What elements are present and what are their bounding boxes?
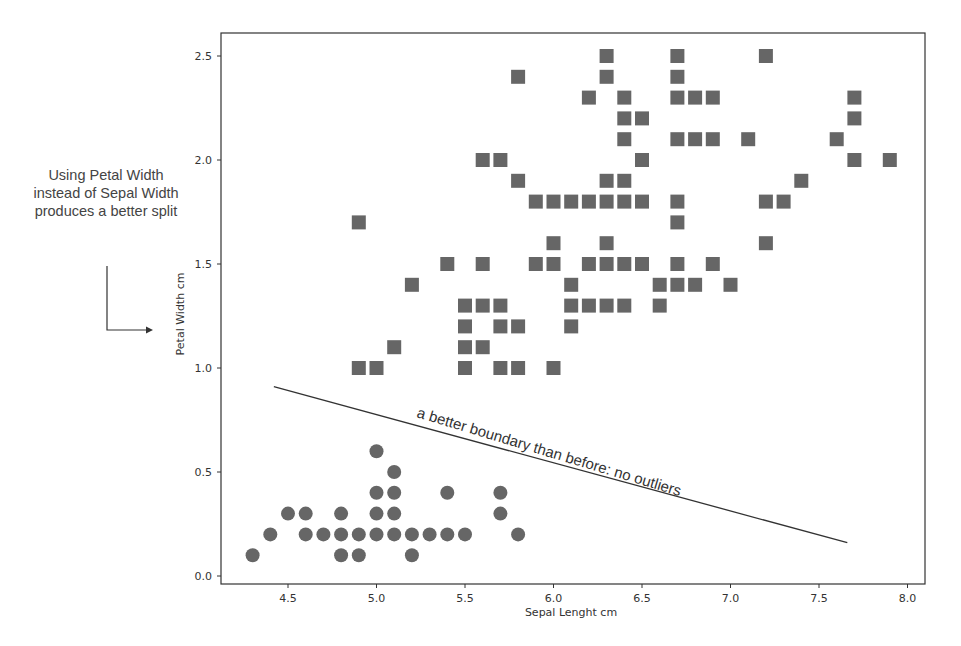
circle-marker — [458, 527, 472, 541]
square-marker — [582, 299, 596, 313]
circle-marker — [334, 527, 348, 541]
boundary-label: a better boundary than before: no outlie… — [415, 404, 683, 499]
circle-marker — [352, 527, 366, 541]
square-marker — [511, 70, 525, 84]
circle-marker — [334, 548, 348, 562]
square-marker — [476, 340, 490, 354]
square-marker — [458, 361, 472, 375]
square-marker — [670, 278, 684, 292]
circle-marker — [493, 486, 507, 500]
circle-marker — [370, 507, 384, 521]
square-marker — [777, 195, 791, 209]
square-marker — [653, 299, 667, 313]
circle-marker — [352, 548, 366, 562]
square-marker — [458, 340, 472, 354]
square-marker — [387, 340, 401, 354]
square-marker — [600, 257, 614, 271]
circle-marker — [246, 548, 260, 562]
square-marker — [493, 153, 507, 167]
arrow-icon — [107, 266, 153, 334]
circle-marker — [370, 486, 384, 500]
square-marker — [617, 195, 631, 209]
y-tick-label: 0.0 — [195, 570, 213, 583]
square-marker — [847, 153, 861, 167]
square-marker — [547, 195, 561, 209]
square-marker — [493, 299, 507, 313]
circle-marker — [370, 527, 384, 541]
square-marker — [670, 195, 684, 209]
square-marker — [635, 153, 649, 167]
boundary-line — [274, 387, 847, 543]
circle-marker — [387, 486, 401, 500]
y-tick-label: 1.5 — [195, 258, 213, 271]
square-marker — [670, 91, 684, 105]
square-marker — [493, 361, 507, 375]
circle-marker — [299, 527, 313, 541]
circle-marker — [405, 527, 419, 541]
square-marker — [547, 236, 561, 250]
square-marker — [370, 361, 384, 375]
square-marker — [352, 215, 366, 229]
square-marker — [600, 49, 614, 63]
x-tick-label: 7.5 — [810, 592, 828, 605]
x-tick-label: 7.0 — [722, 592, 740, 605]
square-marker — [600, 195, 614, 209]
circle-marker — [440, 486, 454, 500]
square-marker — [564, 195, 578, 209]
square-marker — [582, 91, 596, 105]
square-marker — [830, 132, 844, 146]
circle-marker — [493, 507, 507, 521]
square-marker — [582, 195, 596, 209]
circle-marker — [387, 465, 401, 479]
circle-marker — [511, 527, 525, 541]
square-marker — [670, 215, 684, 229]
square-marker — [493, 319, 507, 333]
square-marker — [794, 174, 808, 188]
square-marker — [759, 195, 773, 209]
x-tick-label: 8.0 — [899, 592, 917, 605]
square-marker — [617, 111, 631, 125]
square-marker — [617, 257, 631, 271]
square-marker — [617, 132, 631, 146]
square-marker — [600, 174, 614, 188]
circle-marker — [440, 527, 454, 541]
y-axis-ticks: 0.00.51.01.52.02.5 — [195, 50, 222, 583]
square-marker — [706, 91, 720, 105]
square-marker — [688, 278, 702, 292]
y-tick-label: 2.5 — [195, 50, 213, 63]
square-marker — [600, 236, 614, 250]
square-marker — [741, 132, 755, 146]
square-marker — [547, 257, 561, 271]
data-markers — [246, 49, 897, 562]
x-tick-label: 6.5 — [633, 592, 651, 605]
square-marker — [511, 174, 525, 188]
circle-marker — [299, 507, 313, 521]
square-marker — [688, 91, 702, 105]
square-marker — [529, 195, 543, 209]
x-tick-label: 5.5 — [456, 592, 474, 605]
square-marker — [600, 299, 614, 313]
square-marker — [706, 257, 720, 271]
square-marker — [617, 299, 631, 313]
square-marker — [476, 299, 490, 313]
scatter-chart: a better boundary than before: no outlie… — [0, 0, 961, 646]
y-tick-label: 1.0 — [195, 362, 213, 375]
square-marker — [617, 91, 631, 105]
x-tick-label: 4.5 — [279, 592, 297, 605]
square-marker — [476, 153, 490, 167]
square-marker — [617, 174, 631, 188]
circle-marker — [387, 507, 401, 521]
square-marker — [670, 132, 684, 146]
square-marker — [564, 319, 578, 333]
circle-marker — [423, 527, 437, 541]
square-marker — [458, 299, 472, 313]
circle-marker — [316, 527, 330, 541]
square-marker — [847, 111, 861, 125]
square-marker — [458, 319, 472, 333]
square-marker — [547, 361, 561, 375]
square-marker — [564, 299, 578, 313]
x-axis-ticks: 4.55.05.56.06.57.07.58.0 — [279, 584, 916, 605]
square-marker — [688, 132, 702, 146]
y-tick-label: 0.5 — [195, 466, 213, 479]
square-marker — [582, 257, 596, 271]
